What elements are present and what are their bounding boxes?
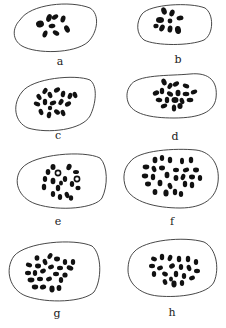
panel-b — [138, 5, 212, 45]
panel-label-b: b — [174, 54, 181, 65]
panel-d — [127, 74, 216, 118]
panel-g — [9, 242, 100, 301]
chromosomes — [35, 13, 71, 38]
panel-f — [124, 149, 218, 208]
chromosomes — [25, 252, 75, 292]
panel-label-c: c — [55, 130, 61, 141]
cell-outline — [138, 5, 212, 45]
cell-outline — [16, 77, 96, 130]
chromosomes — [42, 163, 81, 201]
chromosome-figure — [0, 0, 226, 328]
chromosomes — [152, 78, 198, 112]
chromosomes — [149, 254, 200, 288]
panel-label-h: h — [168, 307, 175, 318]
panel-a — [14, 4, 96, 52]
panel-label-g: g — [53, 308, 60, 319]
chromosomes — [142, 155, 202, 197]
panel-h — [128, 239, 217, 296]
panel-c — [16, 77, 96, 130]
panel-label-d: d — [171, 131, 178, 142]
chromosomes — [33, 86, 78, 118]
panel-label-f: f — [170, 216, 174, 227]
panel-label-a: a — [57, 56, 64, 67]
cell-outline — [14, 4, 96, 52]
panel-label-e: e — [55, 216, 62, 227]
panel-e — [17, 154, 106, 208]
chromosomes — [153, 7, 183, 35]
cell-outline — [9, 242, 100, 301]
